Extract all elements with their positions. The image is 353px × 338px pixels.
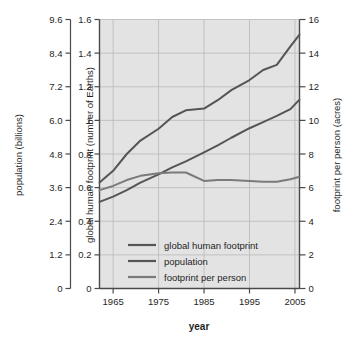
x-axis-tick-label: 1965	[103, 296, 124, 307]
footprint-per-person-axis-tick-label: 0	[309, 283, 314, 294]
legend-label: global human footprint	[164, 240, 258, 251]
footprint-per-person-axis-title: footprint per person (acres)	[331, 98, 342, 213]
footprint-per-person-axis-tick-label: 8	[309, 149, 314, 160]
footprint-axis-tick-label: 1.6	[78, 14, 91, 25]
population-axis-tick-label: 4.8	[49, 149, 62, 160]
legend-label: population	[164, 256, 208, 267]
footprint-axis-title: global human footprint (number of Earths…	[84, 67, 95, 243]
x-axis-tick-label: 1985	[193, 296, 214, 307]
x-axis-tick-label: 1975	[148, 296, 169, 307]
x-axis-tick-label: 1995	[239, 296, 260, 307]
population-axis-tick-label: 0	[57, 283, 62, 294]
footprint-axis-tick-label: 1.4	[78, 48, 91, 59]
population-axis-title: population (billions)	[13, 114, 24, 196]
footprint-per-person-axis-tick-label: 16	[309, 14, 320, 25]
footprint-per-person-axis-tick-label: 2	[309, 249, 314, 260]
x-axis-tick-label: 2005	[284, 296, 305, 307]
chart-figure: 01.22.43.64.86.07.28.49.6 00.20.40.60.81…	[0, 0, 353, 338]
population-axis-tick-label: 8.4	[49, 48, 62, 59]
footprint-axis-tick-label: 0	[86, 283, 91, 294]
footprint-per-person-axis-tick-label: 14	[309, 48, 320, 59]
footprint-per-person-axis-tick-label: 12	[309, 81, 320, 92]
population-axis-tick-label: 6.0	[49, 115, 62, 126]
footprint-per-person-axis-tick-label: 4	[309, 216, 314, 227]
population-axis-tick-label: 1.2	[49, 249, 62, 260]
legend-label: footprint per person	[164, 272, 246, 283]
x-axis-title: year	[189, 321, 210, 332]
population-axis-tick-label: 3.6	[49, 182, 62, 193]
chart-svg: 01.22.43.64.86.07.28.49.6 00.20.40.60.81…	[0, 0, 353, 338]
footprint-per-person-axis-tick-label: 10	[309, 115, 320, 126]
population-axis-tick-label: 9.6	[49, 14, 62, 25]
footprint-per-person-axis-tick-label: 6	[309, 182, 314, 193]
footprint-axis-tick-label: 0.2	[78, 249, 91, 260]
population-axis-tick-label: 7.2	[49, 81, 62, 92]
population-axis-tick-label: 2.4	[49, 216, 62, 227]
